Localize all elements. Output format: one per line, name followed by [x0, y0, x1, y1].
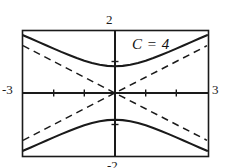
plot-canvas — [0, 0, 227, 168]
x-max-label: 3 — [212, 83, 219, 96]
y-max-label: 2 — [106, 13, 113, 26]
hyperbola-figure: 2 -3 3 -2 C = 4 — [0, 0, 227, 168]
curve-constant-label: C = 4 — [132, 36, 170, 53]
x-min-label: -3 — [2, 83, 13, 96]
y-min-label: -2 — [107, 159, 118, 168]
